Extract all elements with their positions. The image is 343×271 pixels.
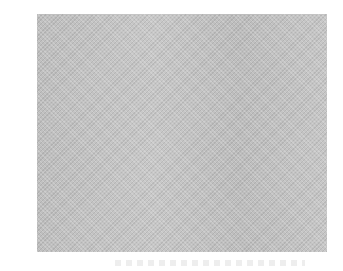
gray-texture-panel <box>37 14 327 252</box>
image-canvas <box>0 0 343 271</box>
faint-caption-marks <box>115 260 305 266</box>
